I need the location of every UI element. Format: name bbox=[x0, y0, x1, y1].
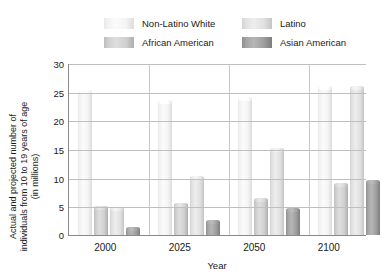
bar-non-latino-white-2100 bbox=[318, 88, 332, 235]
bar-slot bbox=[366, 64, 380, 235]
y-axis-title-line2: individuals from 10 to 19 years of age bbox=[19, 102, 29, 252]
bar-asian-american-2100 bbox=[366, 182, 380, 235]
bar-african-american-2000 bbox=[94, 208, 108, 235]
bar-asian-american-2025 bbox=[206, 222, 220, 235]
gridline: 10 bbox=[69, 179, 366, 180]
bar-african-american-2050 bbox=[254, 200, 268, 235]
gridline: 20 bbox=[69, 121, 366, 122]
legend-item-non-latino-white: Non-Latino White bbox=[104, 14, 224, 33]
gridline: 15 bbox=[69, 150, 366, 151]
bar-asian-american-2000 bbox=[126, 229, 140, 235]
legend-swatch-african-american bbox=[104, 37, 134, 48]
plot-region: 051015202530 bbox=[68, 64, 366, 236]
chart-legend: Non-Latino White Latino African American… bbox=[104, 14, 364, 52]
y-axis-tick-label: 20 bbox=[53, 117, 64, 127]
x-axis-title: Year bbox=[68, 260, 366, 271]
bar-latino-2025 bbox=[190, 178, 204, 235]
y-axis-title-line3: (in millions) bbox=[30, 154, 40, 200]
legend-label-asian-american: Asian American bbox=[280, 37, 346, 48]
gridline: 25 bbox=[69, 93, 366, 94]
gridline: 30 bbox=[69, 64, 366, 65]
y-axis-tick-label: 0 bbox=[59, 231, 64, 241]
legend-label-african-american: African American bbox=[142, 37, 214, 48]
legend-item-latino: Latino bbox=[242, 14, 362, 33]
y-axis-tick-label: 30 bbox=[53, 60, 64, 70]
y-axis-tick-label: 5 bbox=[59, 203, 64, 213]
chart-area: Actual and projected number of individua… bbox=[0, 56, 378, 280]
bar-non-latino-white-2000 bbox=[78, 92, 92, 235]
legend-label-latino: Latino bbox=[280, 18, 306, 29]
x-axis-labels: 2000202520502100 bbox=[68, 242, 366, 253]
legend-swatch-non-latino-white bbox=[104, 18, 134, 29]
legend-swatch-asian-american bbox=[242, 37, 272, 48]
x-axis-label-2000: 2000 bbox=[68, 242, 143, 253]
bar-non-latino-white-2050 bbox=[238, 99, 252, 235]
legend-swatch-latino bbox=[242, 18, 272, 29]
bar-latino-2000 bbox=[110, 209, 124, 235]
x-axis-label-2050: 2050 bbox=[217, 242, 292, 253]
y-axis-tick-label: 15 bbox=[53, 146, 64, 156]
legend-item-african-american: African American bbox=[104, 33, 224, 52]
y-axis-title: Actual and projected number of individua… bbox=[8, 77, 41, 277]
y-axis-tick-label: 25 bbox=[53, 89, 64, 99]
legend-item-asian-american: Asian American bbox=[242, 33, 362, 52]
bar-african-american-2025 bbox=[174, 205, 188, 235]
bar-latino-2100 bbox=[350, 88, 364, 235]
gridline: 5 bbox=[69, 207, 366, 208]
y-axis-tick-label: 10 bbox=[53, 175, 64, 185]
x-axis-label-2100: 2100 bbox=[292, 242, 367, 253]
bar-latino-2050 bbox=[270, 150, 284, 235]
legend-label-non-latino-white: Non-Latino White bbox=[142, 18, 215, 29]
x-axis-label-2025: 2025 bbox=[143, 242, 218, 253]
bar-asian-american-2050 bbox=[286, 210, 300, 235]
bar-african-american-2100 bbox=[334, 185, 348, 235]
y-axis-title-line1: Actual and projected number of bbox=[8, 114, 18, 239]
